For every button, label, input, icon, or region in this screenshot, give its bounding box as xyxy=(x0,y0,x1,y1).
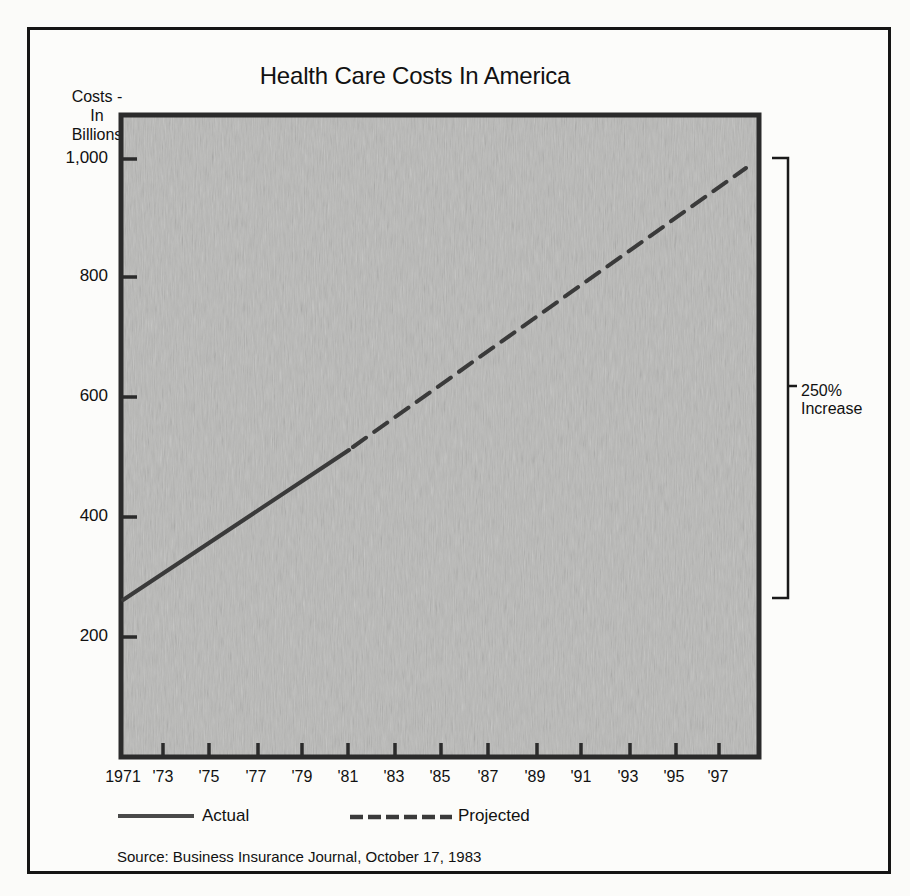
legend-actual-label: Actual xyxy=(202,806,249,826)
x-tick-label: '73 xyxy=(138,768,188,786)
x-tick-label: '79 xyxy=(277,768,327,786)
x-tick-label: '97 xyxy=(693,768,743,786)
increase-annotation: 250% Increase xyxy=(801,382,862,418)
y-tick-label: 400 xyxy=(48,506,108,526)
x-tick-label: '75 xyxy=(184,768,234,786)
y-tick-label: 200 xyxy=(48,626,108,646)
x-tick-label: '95 xyxy=(649,768,699,786)
x-tick-label: '89 xyxy=(510,768,560,786)
x-tick-label: '77 xyxy=(231,768,281,786)
x-tick-label: '91 xyxy=(556,768,606,786)
x-tick-label: '81 xyxy=(323,768,373,786)
x-tick-label: '87 xyxy=(463,768,513,786)
increase-bracket xyxy=(772,158,797,598)
source-caption: Source: Business Insurance Journal, Octo… xyxy=(117,848,481,865)
legend-projected-label: Projected xyxy=(458,806,530,826)
y-tick-label: 1,000 xyxy=(48,148,108,168)
x-tick-label: '93 xyxy=(603,768,653,786)
x-tick-label: '83 xyxy=(369,768,419,786)
chart-canvas xyxy=(0,0,910,896)
annotation-percent: 250% xyxy=(801,382,862,400)
annotation-word: Increase xyxy=(801,400,862,418)
x-tick-label: '85 xyxy=(415,768,465,786)
y-tick-label: 600 xyxy=(48,386,108,406)
plot-texture xyxy=(121,115,759,757)
y-tick-label: 800 xyxy=(48,266,108,286)
